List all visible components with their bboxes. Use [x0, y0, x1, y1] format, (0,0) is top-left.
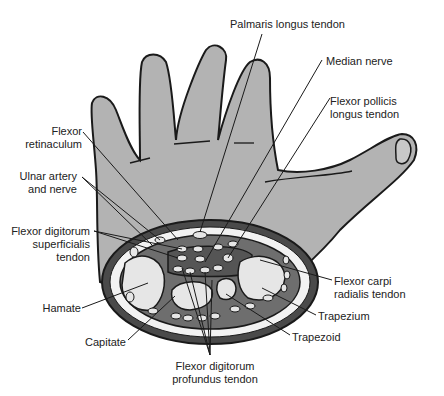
label-fpl-line1: Flexor pollicis	[330, 95, 397, 108]
label-median-nerve: Median nerve	[326, 55, 393, 68]
label-fcr-line1: Flexor carpi	[334, 275, 391, 288]
label-palmaris-longus: Palmaris longus tendon	[230, 18, 345, 31]
trapezium-bone	[238, 256, 285, 300]
label-fds-line1: Flexor digitorum	[0, 225, 90, 238]
label-fds-line2: superficialis	[0, 238, 90, 251]
thumbnail	[396, 139, 411, 164]
label-fpl-line2: longus tendon	[330, 108, 399, 121]
label-trapezium: Trapezium	[318, 310, 370, 323]
label-capitate: Capitate	[40, 336, 126, 349]
label-fdp-line2: profundus tendon	[160, 373, 270, 386]
label-fds-line3: tendon	[0, 251, 90, 264]
trapezoid-bone	[217, 279, 236, 300]
label-hamate: Hamate	[0, 302, 81, 315]
label-trapezoid: Trapezoid	[292, 331, 341, 344]
label-fdp-line1: Flexor digitorum	[160, 360, 270, 373]
label-ulnar-line1: Ulnar artery	[0, 170, 77, 183]
label-fcr-line2: radialis tendon	[334, 288, 406, 301]
label-flexor-retinaculum-line2: retinaculum	[10, 138, 82, 151]
label-flexor-retinaculum-line1: Flexor	[10, 125, 82, 138]
label-ulnar-line2: and nerve	[0, 183, 77, 196]
